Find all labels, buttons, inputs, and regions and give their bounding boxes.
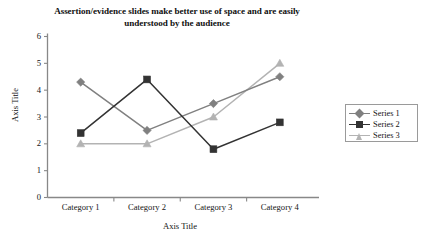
legend-label: Series 3 [370,131,400,140]
data-point-marker [144,76,151,83]
chart-legend: Series 1Series 2Series 3 [345,104,418,142]
data-point-marker [209,99,217,107]
data-point-marker [276,119,283,126]
legend-item[interactable]: Series 1 [349,108,417,119]
data-point-marker [210,146,217,153]
legend-item[interactable]: Series 2 [349,119,417,130]
triangle-marker-icon [356,133,362,140]
data-point-marker [77,130,84,137]
legend-label: Series 1 [370,109,400,118]
data-point-marker [276,59,284,66]
legend-marker-sample [349,109,370,119]
legend-marker-sample [349,120,370,130]
series-line [81,77,280,131]
line-chart: Assertion/evidence slides make better us… [0,0,428,244]
data-point-marker [276,73,284,81]
diamond-marker-icon [355,109,365,119]
legend-item[interactable]: Series 3 [349,130,417,141]
legend-label: Series 2 [370,120,400,129]
legend-marker-sample [349,131,370,141]
series-line [81,79,280,149]
square-marker-icon [356,121,363,128]
